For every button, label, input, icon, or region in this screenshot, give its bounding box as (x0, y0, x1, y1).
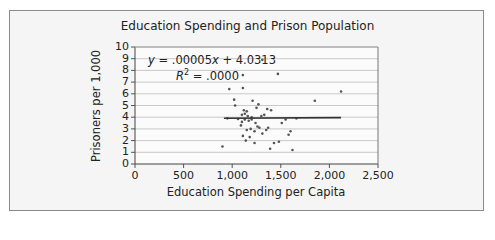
trendline-equation: y = .00005x + 4.0313 (148, 53, 276, 67)
x-axis-label: Education Spending per Capita (167, 185, 346, 199)
y-tick-label: 5 (109, 99, 129, 112)
r-squared-label: R2 = .0000 (176, 68, 239, 83)
y-axis-label: Prisoners per 1,000 (89, 50, 103, 162)
y-tick-label: 10 (109, 40, 129, 53)
x-tick-label: 2,000 (314, 169, 346, 182)
y-tick-label: 4 (109, 110, 129, 123)
x-tick-label: 2,500 (362, 169, 394, 182)
y-tick-label: 7 (109, 75, 129, 88)
x-tick-label: 500 (173, 169, 194, 182)
y-tick-label: 2 (109, 134, 129, 147)
x-tick-label: 1,000 (216, 169, 248, 182)
x-tick-label: 0 (132, 169, 139, 182)
y-tick-label: 0 (109, 157, 129, 170)
y-tick-label: 6 (109, 87, 129, 100)
x-tick-label: 1,500 (265, 169, 297, 182)
y-tick-label: 1 (109, 145, 129, 158)
y-tick-label: 9 (109, 52, 129, 65)
y-tick-label: 8 (109, 63, 129, 76)
y-tick-label: 3 (109, 122, 129, 135)
